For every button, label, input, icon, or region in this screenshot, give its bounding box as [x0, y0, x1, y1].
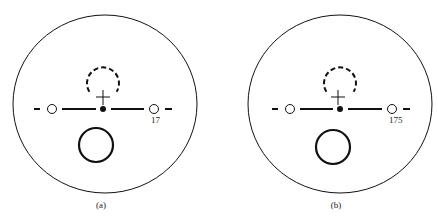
bold-circle: [316, 130, 350, 164]
figure-canvas: 17(a) 175(b): [0, 0, 438, 219]
outer-circle: [248, 15, 432, 193]
right-ring: [150, 105, 159, 114]
right-ring: [388, 105, 397, 114]
marker-label: 17: [151, 115, 161, 125]
panel-caption: (b): [331, 200, 342, 210]
panel-b: 175(b): [248, 15, 432, 210]
panel-caption: (a): [96, 200, 106, 210]
panel-a: 17(a): [13, 15, 197, 210]
outer-circle: [13, 15, 197, 193]
center-dot: [100, 106, 106, 112]
left-ring: [48, 105, 57, 114]
left-ring: [286, 105, 295, 114]
bold-circle: [79, 128, 113, 162]
dashed-circle: [324, 67, 356, 91]
dashed-circle: [87, 67, 119, 91]
marker-label: 175: [389, 115, 403, 125]
center-dot: [337, 106, 343, 112]
